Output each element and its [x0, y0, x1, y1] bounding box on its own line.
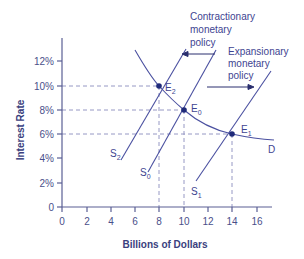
label-s1: S1: [191, 186, 202, 199]
y-tick-12: 12%: [34, 56, 54, 67]
point-e1: [229, 131, 235, 137]
label-e0: E0: [191, 103, 202, 116]
x-tick-2: 2: [84, 216, 90, 227]
x-tick-6: 6: [132, 216, 138, 227]
x-tick-4: 4: [108, 216, 114, 227]
label-e1: E1: [241, 124, 252, 137]
arrow-left-icon: [182, 52, 188, 57]
contractionary-line-3: policy: [190, 37, 216, 48]
contractionary-line-2: monetary: [190, 24, 232, 35]
y-tick-0: 0: [48, 202, 54, 213]
expansionary-line-1: Expansionary: [228, 46, 289, 57]
y-axis-title: Interest Rate: [15, 99, 26, 160]
y-tick-2: 2%: [40, 178, 55, 189]
expansionary-line-2: monetary: [228, 58, 270, 69]
y-tick-8: 8%: [40, 105, 55, 116]
point-e2: [156, 83, 162, 89]
x-tick-10: 10: [178, 216, 190, 227]
point-e0: [181, 107, 187, 113]
label-d: D: [268, 144, 275, 155]
x-tick-labels: 0 2 4 6 8 10 12 14 16: [59, 216, 263, 227]
arrow-right-icon: [248, 85, 254, 90]
y-tick-4: 4%: [40, 153, 55, 164]
expansionary-annotation: Expansionary monetary policy: [228, 46, 289, 81]
x-tick-16: 16: [251, 216, 263, 227]
contractionary-annotation: Contractionary monetary policy: [190, 11, 255, 48]
x-tick-14: 14: [226, 216, 238, 227]
monetary-policy-chart: 0 2% 4% 6% 8% 10% 12% 0 2 4 6 8 10 12 14…: [0, 0, 304, 259]
reference-lines: [62, 86, 232, 207]
expansionary-line-3: policy: [228, 70, 254, 81]
y-tick-labels: 0 2% 4% 6% 8% 10% 12%: [34, 56, 54, 213]
x-axis-title: Billions of Dollars: [122, 239, 207, 250]
y-tick-6: 6%: [40, 129, 55, 140]
y-tick-10: 10%: [34, 81, 54, 92]
supply-curve-s2: [121, 49, 186, 160]
contractionary-line-1: Contractionary: [190, 11, 255, 22]
x-tick-8: 8: [156, 216, 162, 227]
x-tick-0: 0: [59, 216, 65, 227]
label-s2: S2: [110, 148, 121, 161]
label-e2: E2: [165, 82, 176, 95]
x-tick-12: 12: [202, 216, 214, 227]
